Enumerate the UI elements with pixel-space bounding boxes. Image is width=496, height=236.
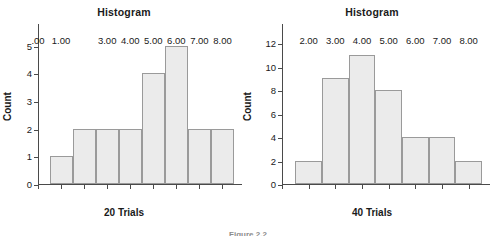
y-tick-right (278, 68, 282, 69)
x-tick-right (335, 185, 336, 189)
y-tick-label-right: 4 (271, 133, 276, 143)
histogram-bar (73, 129, 96, 184)
plot-area-left: 012345.001.003.004.005.006.007.008.00 (38, 30, 234, 185)
figure-two-histograms: Histogram Count 012345.001.003.004.005.0… (0, 0, 496, 236)
x-tick-right (469, 185, 470, 189)
histogram-bar (429, 137, 456, 184)
y-tick-left (34, 157, 38, 158)
y-tick-left (34, 130, 38, 131)
histogram-panel-right: Histogram Count 0246810122.003.004.005.0… (248, 0, 496, 236)
y-tick-right (278, 91, 282, 92)
x-tick-right (442, 185, 443, 189)
x-tick-left (38, 185, 39, 189)
y-tick-right (278, 138, 282, 139)
x-axis-line-right (282, 184, 490, 185)
y-tick-label-left: 0 (27, 180, 32, 190)
x-axis-label-right: 40 Trials (248, 207, 496, 218)
x-tick-left (153, 185, 154, 189)
x-tick-right (389, 185, 390, 189)
histogram-bar (211, 129, 234, 184)
y-tick-label-right: 0 (271, 180, 276, 190)
histogram-bar (188, 129, 211, 184)
x-tick-right (362, 185, 363, 189)
x-tick-left (176, 185, 177, 189)
histogram-panel-left: Histogram Count 012345.001.003.004.005.0… (0, 0, 248, 236)
y-tick-label-right: 8 (271, 86, 276, 96)
y-tick-label-right: 6 (271, 110, 276, 120)
x-tick-label-right: 6.00 (406, 36, 425, 46)
y-axis-label-left: Count (3, 93, 13, 121)
x-tick-label-left: 1.00 (52, 36, 71, 46)
x-tick-label-left: 6.00 (167, 36, 186, 46)
histogram-bar (375, 90, 402, 184)
x-tick-label-left: 5.00 (144, 36, 163, 46)
x-tick-right (415, 185, 416, 189)
y-tick-right (278, 162, 282, 163)
histogram-bar (455, 161, 482, 184)
x-tick-right (282, 185, 283, 189)
histogram-bar (142, 73, 165, 184)
x-tick-left (130, 185, 131, 189)
y-axis-line-left (38, 24, 39, 185)
y-tick-left (34, 102, 38, 103)
x-tick-left (199, 185, 200, 189)
plot-area-right: 0246810122.003.004.005.006.007.008.00 (282, 30, 482, 185)
x-tick-label-left: 7.00 (190, 36, 209, 46)
x-tick-label-right: 2.00 (299, 36, 318, 46)
y-tick-right (278, 44, 282, 45)
x-axis-label-left: 20 Trials (0, 207, 248, 218)
y-tick-label-left: 3 (27, 97, 32, 107)
y-tick-left (34, 74, 38, 75)
x-tick-label-left: .00 (31, 36, 44, 46)
y-tick-label-right: 2 (271, 157, 276, 167)
histogram-bar (96, 129, 119, 184)
x-tick-label-right: 8.00 (459, 36, 478, 46)
x-tick-label-left: 3.00 (98, 36, 117, 46)
histogram-bar (402, 137, 429, 184)
chart-title-right: Histogram (248, 6, 496, 18)
y-axis-line-right (282, 24, 283, 185)
histogram-bar (165, 46, 188, 184)
histogram-bar (119, 129, 142, 184)
x-tick-left (84, 185, 85, 189)
y-tick-right (278, 115, 282, 116)
histogram-bar (349, 55, 376, 184)
y-tick-label-left: 1 (27, 153, 32, 163)
histogram-bar (295, 161, 322, 184)
x-tick-label-left: 8.00 (213, 36, 232, 46)
x-tick-left (61, 185, 62, 189)
histogram-bar (50, 156, 73, 184)
x-axis-line-left (38, 184, 242, 185)
x-tick-label-right: 5.00 (379, 36, 398, 46)
y-tick-left (34, 47, 38, 48)
x-tick-left (107, 185, 108, 189)
y-tick-label-left: 2 (27, 125, 32, 135)
y-tick-label-right: 10 (265, 63, 276, 73)
chart-title-left: Histogram (0, 6, 248, 18)
x-tick-label-right: 3.00 (326, 36, 345, 46)
x-tick-label-right: 7.00 (433, 36, 452, 46)
x-tick-left (222, 185, 223, 189)
y-tick-label-right: 12 (265, 39, 276, 49)
figure-caption: Figure 2.2 (0, 231, 496, 236)
x-tick-label-right: 4.00 (353, 36, 372, 46)
y-tick-label-left: 4 (27, 70, 32, 80)
y-axis-label-right: Count (243, 93, 253, 121)
histogram-bar (322, 78, 349, 184)
x-tick-label-left: 4.00 (121, 36, 140, 46)
x-tick-right (309, 185, 310, 189)
